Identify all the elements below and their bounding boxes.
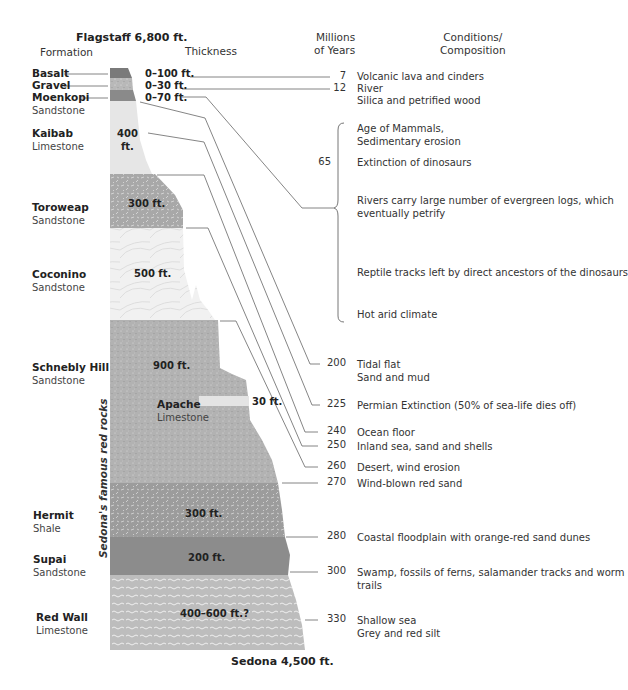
formation-name: Supai <box>33 553 86 566</box>
thickness-coconino: 500 ft. <box>134 268 171 279</box>
formation-toroweap: Toroweap Sandstone <box>32 201 89 227</box>
condition-line: Inland sea, sand and shells <box>357 439 493 454</box>
formation-type: Shale <box>33 522 74 535</box>
formation-name: Schnebly Hill <box>32 361 109 374</box>
condition-line: Extinction of dinosaurs <box>357 155 472 170</box>
condition-12: River Silica and petrified wood <box>357 81 481 108</box>
thickness-schnebly-hill: 900 ft. <box>153 360 190 371</box>
condition-250: Inland sea, sand and shells <box>357 439 493 454</box>
layer-basalt <box>110 68 132 78</box>
top-elevation-label: Flagstaff 6,800 ft. <box>76 31 187 44</box>
formation-kaibab: Kaibab Limestone <box>32 127 84 153</box>
formation-type: Sandstone <box>32 374 109 387</box>
mya-12: 12 <box>316 82 346 93</box>
thickness-supai: 200 ft. <box>188 552 225 563</box>
thickness-kaibab-line1: 400 <box>117 127 138 140</box>
column-header-formation: Formation <box>40 46 93 58</box>
condition-line: Reptile tracks left by direct ancestors … <box>357 265 628 280</box>
column-header-conditions: Conditions/ Composition <box>440 31 506 57</box>
condition-hot-arid: Hot arid climate <box>357 307 437 322</box>
condition-evergreen-logs: Rivers carry large number of evergreen l… <box>357 193 614 221</box>
condition-line: Coastal floodplain with orange-red sand … <box>357 530 590 545</box>
formation-name: Red Wall <box>36 611 88 624</box>
condition-225: Permian Extinction (50% of sea-life dies… <box>357 398 576 413</box>
formation-coconino: Coconino Sandstone <box>32 268 86 294</box>
condition-270: Wind-blown red sand <box>357 476 462 491</box>
condition-line: trails <box>357 578 624 593</box>
formation-type: Sandstone <box>32 214 89 227</box>
formation-supai: Supai Sandstone <box>33 553 86 579</box>
mya-250: 250 <box>316 439 346 450</box>
thickness-red-wall: 400–600 ft.? <box>180 608 249 619</box>
formation-type: Sandstone <box>33 566 86 579</box>
thickness-gravel: 0–30 ft. <box>145 80 187 91</box>
mya-240: 240 <box>316 425 346 436</box>
mya-300: 300 <box>316 565 346 576</box>
formation-type: Limestone <box>157 411 209 424</box>
condition-line: Desert, wind erosion <box>357 460 460 475</box>
column-header-mya-line1: Millions <box>314 31 355 44</box>
formation-name: Moenkopi <box>32 91 89 104</box>
condition-reptile-tracks: Reptile tracks left by direct ancestors … <box>357 265 628 280</box>
formation-name: Hermit <box>33 509 74 522</box>
formation-name: Toroweap <box>32 201 89 214</box>
formation-name: Kaibab <box>32 127 84 140</box>
formation-type: Limestone <box>36 624 88 637</box>
condition-200: Tidal flat Sand and mud <box>357 357 430 385</box>
mya-260: 260 <box>316 460 346 471</box>
mya-7: 7 <box>316 70 346 81</box>
layer-moenkopi <box>110 90 136 101</box>
thickness-toroweap: 300 ft. <box>128 198 165 209</box>
condition-age-of-mammals: Age of Mammals, Sedimentary erosion <box>357 121 461 149</box>
column-header-conditions-line1: Conditions/ <box>440 31 506 44</box>
formation-hermit: Hermit Shale <box>33 509 74 535</box>
condition-line: Wind-blown red sand <box>357 476 462 491</box>
mya-200: 200 <box>316 357 346 368</box>
thickness-moenkopi: 0–70 ft. <box>145 92 187 103</box>
formation-apache: Apache Limestone <box>157 398 209 424</box>
mya-330: 330 <box>316 613 346 624</box>
mya-280: 280 <box>316 530 346 541</box>
condition-line: Sand and mud <box>357 370 430 385</box>
column-header-thickness: Thickness <box>185 45 237 57</box>
condition-330: Shallow sea Grey and red silt <box>357 613 440 641</box>
condition-line: Grey and red silt <box>357 626 440 641</box>
condition-280: Coastal floodplain with orange-red sand … <box>357 530 590 545</box>
condition-line: Permian Extinction (50% of sea-life dies… <box>357 398 576 413</box>
formation-type: Sandstone <box>32 281 86 294</box>
formation-schnebly-hill: Schnebly Hill Sandstone <box>32 361 109 387</box>
thickness-basalt: 0–100 ft. <box>145 68 194 79</box>
condition-300: Swamp, fossils of ferns, salamander trac… <box>357 565 624 593</box>
formation-red-wall: Red Wall Limestone <box>36 611 88 637</box>
mya-270: 270 <box>316 476 346 487</box>
side-label-red-rocks: Sedona's famous red rocks <box>97 398 109 558</box>
condition-line: Silica and petrified wood <box>357 93 481 108</box>
formation-name: Apache <box>157 398 209 411</box>
thickness-hermit: 300 ft. <box>185 508 222 519</box>
condition-line: Hot arid climate <box>357 307 437 322</box>
condition-240: Ocean floor <box>357 425 415 440</box>
formation-type: Sandstone <box>32 104 89 117</box>
mya-225: 225 <box>316 398 346 409</box>
formation-type: Limestone <box>32 140 84 153</box>
condition-line: Sedimentary erosion <box>357 134 461 149</box>
mya-65: 65 <box>301 156 331 167</box>
column-header-conditions-line2: Composition <box>440 44 506 57</box>
condition-65: Extinction of dinosaurs <box>357 155 472 170</box>
condition-line: Swamp, fossils of ferns, salamander trac… <box>357 565 624 580</box>
formation-name: Coconino <box>32 268 86 281</box>
formation-moenkopi: Moenkopi Sandstone <box>32 91 89 117</box>
condition-line: eventually petrify <box>357 206 614 221</box>
column-header-mya-line2: of Years <box>314 44 355 57</box>
condition-line: Ocean floor <box>357 425 415 440</box>
layer-gravel <box>110 78 133 90</box>
condition-260: Desert, wind erosion <box>357 460 460 475</box>
thickness-kaibab: 400 ft. <box>117 127 138 153</box>
column-header-mya: Millions of Years <box>314 31 355 57</box>
thickness-apache: 30 ft. <box>252 396 282 407</box>
timeline-brace <box>334 123 344 322</box>
thickness-kaibab-line2: ft. <box>117 140 138 153</box>
bottom-elevation-label: Sedona 4,500 ft. <box>231 655 334 668</box>
